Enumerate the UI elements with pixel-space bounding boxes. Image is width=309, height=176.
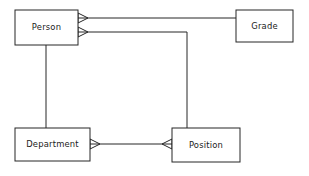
er-diagram: Person Grade Department Position xyxy=(0,0,309,176)
connector-person-position xyxy=(78,32,187,128)
entity-department[interactable]: Department xyxy=(15,128,90,161)
entity-label-person: Person xyxy=(32,22,61,32)
entity-label-position: Position xyxy=(189,140,223,150)
entity-person[interactable]: Person xyxy=(15,10,78,45)
entity-position[interactable]: Position xyxy=(172,128,240,162)
entity-label-department: Department xyxy=(26,139,79,149)
entity-grade[interactable]: Grade xyxy=(236,10,293,42)
er-diagram-canvas: Person Grade Department Position xyxy=(0,0,309,176)
entity-label-grade: Grade xyxy=(251,21,278,31)
